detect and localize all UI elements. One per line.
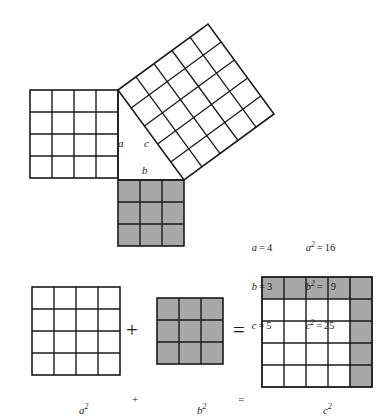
operator-equals: = — [233, 320, 245, 341]
bottom-square-a2 — [32, 287, 120, 375]
bottom-square-b2 — [157, 298, 223, 364]
values-row-b-squared: b2=9 — [290, 267, 336, 280]
values-row-b: b=3 — [236, 267, 272, 280]
label-leg-a: a — [118, 138, 124, 149]
square-on-hypotenuse-c — [118, 24, 274, 180]
bottom-label-plus: + — [132, 394, 138, 405]
square-on-leg-a — [30, 90, 118, 178]
label-hypotenuse-c: c — [144, 138, 149, 149]
pythagorean-figure: a b c a=4 b=3 c=5 a2=16 b2=9 c2=25 + = a… — [0, 0, 391, 420]
bottom-label-equals: = — [238, 394, 244, 405]
label-leg-b: b — [142, 165, 148, 176]
bottom-label-b-squared: b2 — [186, 394, 206, 420]
values-row-a-squared: a2=16 — [290, 228, 336, 241]
bottom-label-c-squared: c2 — [312, 394, 332, 420]
values-row-c-squared: c2=25 — [290, 306, 336, 319]
values-row-a: a=4 — [236, 228, 272, 241]
square-on-leg-b — [118, 180, 184, 246]
operator-plus: + — [126, 320, 138, 341]
values-right-column: a2=16 b2=9 c2=25 — [290, 202, 336, 345]
bottom-label-a-squared: a2 — [68, 394, 88, 420]
